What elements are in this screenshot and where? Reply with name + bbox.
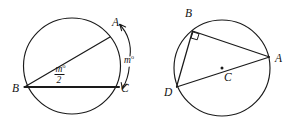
chord-segment-ba <box>25 37 111 87</box>
point-label-b-left: B <box>12 82 19 94</box>
fraction-numerator: m <box>56 64 63 74</box>
geometry-figure-canvas: A B C m o 2 m o <box>0 0 298 134</box>
point-label-b-right: B <box>185 7 192 19</box>
degree-superscript-arc: o <box>131 54 134 60</box>
fraction-denominator: 2 <box>57 75 62 85</box>
right-panel-thales: B A D C <box>163 7 283 116</box>
arc-measure-label: m <box>124 55 131 65</box>
left-panel-inscribed-angle: A B C m o 2 m o <box>12 16 134 114</box>
geometry-figure-root: A B C m o 2 m o <box>0 0 298 134</box>
right-angle-mark-at-b <box>191 32 199 40</box>
point-label-c-center: C <box>224 71 232 83</box>
degree-superscript-numerator: o <box>63 63 66 69</box>
point-label-d-right: D <box>163 86 173 98</box>
point-label-a-left: A <box>111 16 120 28</box>
diameter-segment-da <box>177 57 270 87</box>
chord-segment-ba-right <box>193 31 270 57</box>
left-circle <box>24 18 121 114</box>
chord-segment-bd-right <box>177 31 193 87</box>
intercepted-arc-arrow: m o <box>120 24 135 89</box>
circle-center-dot <box>221 67 224 70</box>
inscribed-angle-measure-fraction: m o 2 <box>55 63 66 85</box>
point-label-a-right: A <box>274 52 283 64</box>
